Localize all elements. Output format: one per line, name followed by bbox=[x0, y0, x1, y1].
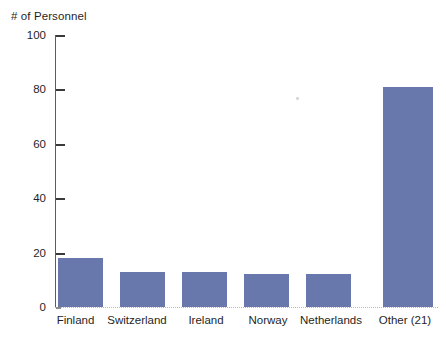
y-tick-label-0: 0 bbox=[8, 301, 46, 313]
y-tick-label-100: 100 bbox=[8, 29, 46, 41]
bar-netherlands bbox=[306, 274, 351, 307]
x-axis-baseline bbox=[55, 307, 438, 309]
y-tick-label-80: 80 bbox=[8, 83, 46, 95]
bar-other bbox=[383, 87, 433, 307]
y-tick-label-20: 20 bbox=[8, 247, 46, 259]
y-tick-label-60: 60 bbox=[8, 138, 46, 150]
x-label-netherlands: Netherlands bbox=[289, 313, 373, 327]
x-label-other: Other (21) bbox=[368, 313, 442, 327]
bar-norway bbox=[244, 274, 289, 307]
y-axis-caption: # of Personnel bbox=[11, 9, 87, 23]
bar-ireland bbox=[182, 272, 227, 307]
x-label-switzerland: Switzerland bbox=[97, 313, 177, 327]
plot-area bbox=[55, 35, 435, 307]
bar-switzerland bbox=[120, 272, 165, 307]
y-tick-0 bbox=[56, 307, 61, 309]
bar-chart: # of Personnel 100 80 60 40 20 0 Finland… bbox=[0, 0, 446, 341]
y-tick-label-40: 40 bbox=[8, 192, 46, 204]
scan-artifact bbox=[296, 97, 299, 100]
bar-finland bbox=[58, 258, 103, 307]
